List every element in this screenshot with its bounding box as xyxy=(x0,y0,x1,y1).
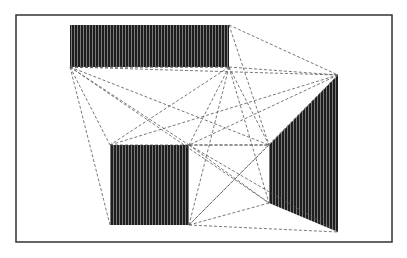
dashed-line xyxy=(110,67,229,145)
dashed-line xyxy=(189,67,229,145)
diagram-canvas xyxy=(0,0,407,258)
dashed-line xyxy=(70,67,110,145)
filled-shapes xyxy=(70,25,338,232)
top-rectangle xyxy=(70,25,229,67)
dashed-line xyxy=(70,67,189,145)
dashed-line xyxy=(189,203,269,225)
dashed-line xyxy=(189,145,269,203)
dashed-line xyxy=(229,67,269,145)
dashed-line xyxy=(229,25,269,145)
dashed-line xyxy=(189,145,269,225)
dashed-line xyxy=(70,67,338,75)
dashed-line xyxy=(189,225,338,232)
dashed-line xyxy=(229,25,338,75)
bottom-square xyxy=(110,145,189,225)
dashed-line xyxy=(229,67,269,203)
dashed-line xyxy=(189,67,229,225)
right-quadrilateral xyxy=(269,75,338,232)
